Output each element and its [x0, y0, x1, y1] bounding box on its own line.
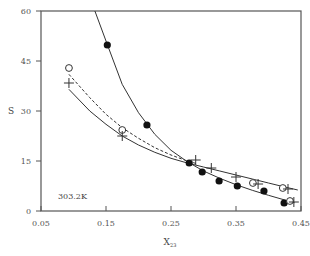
- x-tick-label: 0.15: [97, 219, 115, 228]
- fit-open-circles-curve: [69, 74, 197, 163]
- filled-circle-marker: [104, 41, 111, 48]
- filled-circle-marker: [260, 187, 267, 194]
- x-tick-label: 0.35: [227, 219, 245, 228]
- filled-circle-marker: [216, 177, 223, 184]
- open-circle-marker: [250, 180, 257, 187]
- y-tick-label: 15: [21, 157, 31, 166]
- x-tick-label: 0.45: [292, 219, 310, 228]
- fit-filled-curve: [95, 11, 295, 203]
- plus-marker: [117, 131, 127, 141]
- x-axis-label-subscript: 23: [170, 242, 176, 248]
- fit-plus-curve: [69, 89, 298, 190]
- x-tick-label: 0.25: [162, 219, 180, 228]
- fit-curves: [69, 11, 298, 203]
- open-circle-marker: [287, 198, 294, 205]
- plus-marker: [206, 163, 216, 173]
- y-tick-label: 45: [21, 57, 31, 66]
- open-circle-marker: [279, 185, 286, 192]
- y-tick-label: 0: [26, 207, 31, 216]
- x-axis-label: X23: [164, 237, 177, 248]
- y-tick-label: 60: [21, 7, 31, 16]
- filled-circle-marker: [234, 182, 241, 189]
- open-circle-marker: [66, 65, 73, 72]
- x-tick-label: 0.05: [32, 219, 50, 228]
- y-axis-label: S: [8, 106, 14, 116]
- chart: 0.050.150.250.350.45015304560 S X23 303.…: [0, 0, 310, 256]
- plus-marker: [231, 172, 241, 182]
- temperature-annotation: 303.2K: [58, 192, 88, 201]
- plus-marker: [64, 78, 74, 88]
- filled-circle-marker: [143, 121, 150, 128]
- filled-circle-marker: [199, 168, 206, 175]
- y-tick-label: 30: [21, 107, 31, 116]
